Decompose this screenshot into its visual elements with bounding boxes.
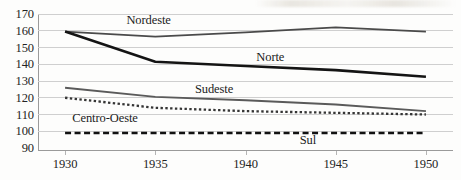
x-tick-label: 1945 bbox=[306, 158, 366, 171]
x-tick-mark bbox=[336, 151, 337, 155]
x-tick-label: 1935 bbox=[125, 158, 185, 171]
series-line-norte bbox=[65, 32, 426, 77]
y-tick-label: 130 bbox=[4, 75, 34, 88]
series-lines bbox=[38, 14, 453, 148]
series-label-nordeste: Nordeste bbox=[126, 14, 170, 27]
x-tick-mark bbox=[426, 151, 427, 155]
y-tick-label: 170 bbox=[4, 8, 34, 21]
series-line-nordeste bbox=[65, 27, 426, 36]
y-tick-label: 140 bbox=[4, 58, 34, 71]
x-axis-tick-labels: 19301935194019451950 bbox=[38, 158, 453, 174]
plot-area bbox=[38, 14, 453, 148]
series-line-sudeste bbox=[65, 88, 426, 111]
series-label-sul: Sul bbox=[300, 134, 316, 147]
y-tick-label: 160 bbox=[4, 25, 34, 38]
y-tick-label: 100 bbox=[4, 125, 34, 138]
series-label-norte: Norte bbox=[256, 51, 284, 64]
x-tick-label: 1950 bbox=[396, 158, 456, 171]
series-label-centro-oeste: Centro-Oeste bbox=[72, 112, 137, 125]
line-chart-figure: 17016015014013012011010090 NordesteNorte… bbox=[0, 0, 461, 180]
x-tick-label: 1940 bbox=[216, 158, 276, 171]
y-tick-label: 110 bbox=[4, 108, 34, 121]
x-tick-label: 1930 bbox=[35, 158, 95, 171]
series-label-sudeste: Sudeste bbox=[195, 83, 233, 96]
y-tick-label: 90 bbox=[4, 142, 34, 155]
scan-artifact bbox=[255, 0, 455, 7]
x-tick-mark bbox=[246, 151, 247, 155]
x-tick-mark bbox=[65, 151, 66, 155]
y-tick-label: 150 bbox=[4, 41, 34, 54]
x-tick-mark bbox=[155, 151, 156, 155]
y-tick-label: 120 bbox=[4, 92, 34, 105]
y-axis-tick-labels: 17016015014013012011010090 bbox=[0, 14, 34, 148]
